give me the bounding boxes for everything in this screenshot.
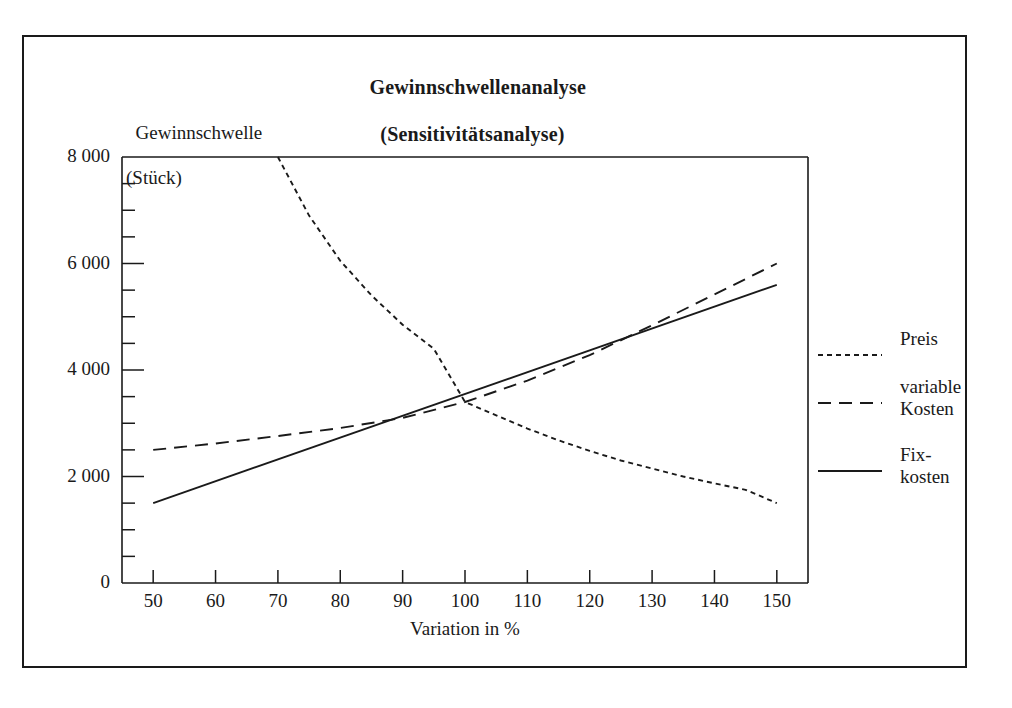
legend-label-line2: kosten — [900, 466, 950, 488]
y-axis-label: Gewinnschwelle (Stück) — [126, 100, 262, 212]
legend-label-line1: variable — [900, 376, 961, 397]
x-tick-label: 150 — [754, 590, 800, 612]
legend-label: Fix-kosten — [900, 444, 950, 488]
y-axis-label-line2: (Stück) — [126, 167, 262, 189]
x-tick-label: 130 — [629, 590, 675, 612]
y-tick-label-text: 4 000 — [10, 358, 110, 380]
y-tick-label-text: 8 000 — [10, 145, 110, 167]
axes-group — [122, 157, 808, 583]
x-ticks-group — [153, 570, 777, 583]
y-tick-label-text: 2 000 — [10, 465, 110, 487]
legend-line-sample-icon — [818, 456, 882, 458]
series-line-variable-kosten — [153, 264, 777, 450]
x-tick-label: 100 — [442, 590, 488, 612]
x-axis-label: Variation in % — [122, 618, 808, 640]
series-line-preis — [278, 157, 777, 503]
x-tick-label: 140 — [691, 590, 737, 612]
legend-label-line1: Fix- — [900, 444, 932, 465]
legend-label-line2: Kosten — [900, 398, 961, 420]
x-tick-label: 90 — [380, 590, 426, 612]
x-tick-label: 70 — [255, 590, 301, 612]
legend-label-line1: Preis — [900, 328, 938, 349]
y-ticks-group — [122, 184, 144, 557]
x-tick-label: 110 — [504, 590, 550, 612]
y-tick-label-text: 0 — [10, 571, 110, 593]
y-tick-label-text: 6 000 — [10, 252, 110, 274]
x-tick-label: 80 — [317, 590, 363, 612]
legend-label: Preis — [900, 328, 938, 350]
chart-title-line1: Gewinnschwellenanalyse — [369, 76, 586, 98]
x-tick-label: 60 — [193, 590, 239, 612]
y-axis-label-line1: Gewinnschwelle — [136, 122, 263, 143]
legend-label: variableKosten — [900, 376, 961, 420]
x-tick-label: 50 — [130, 590, 176, 612]
legend-line-sample-icon — [818, 340, 882, 342]
x-tick-label: 120 — [567, 590, 613, 612]
legend-line-sample-icon — [818, 388, 882, 390]
series-line-fixkosten — [153, 285, 777, 503]
